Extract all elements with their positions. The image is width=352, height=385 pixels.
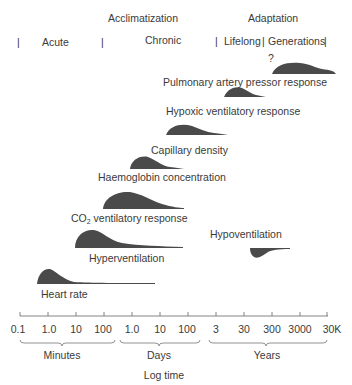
phase-chronic: Chronic (145, 35, 181, 46)
header-adaptation: Adaptation (248, 13, 298, 24)
shape-hypoventilation (250, 248, 290, 258)
separator-lifelong-generations: | (262, 36, 265, 47)
header-acclimatization: Acclimatization (108, 13, 178, 24)
shape-pulmonary-artery-pressor (272, 63, 336, 74)
axis-ticks (20, 312, 327, 316)
brace-days (120, 340, 200, 346)
separator-end: | (324, 36, 327, 47)
label-hypoventilation: Hypoventilation (210, 229, 282, 240)
axis-group-braces (20, 340, 327, 346)
brace-minutes (20, 340, 115, 346)
tick-label: 3 (213, 324, 219, 335)
tick-label: 1.0 (42, 324, 57, 335)
label-co2-ventilatory: CO2 ventilatory response (71, 213, 188, 225)
label-capillary-density: Capillary density (151, 145, 228, 156)
label-hypoxic-ventilatory: Hypoxic ventilatory response (166, 106, 300, 117)
tick-label: 30K (323, 324, 342, 335)
tick-label: 300 (263, 324, 281, 335)
label-hyperventilation: Hyperventilation (89, 253, 164, 264)
shape-hypoxic-ventilatory (224, 87, 266, 97)
shape-capillary-density (166, 125, 228, 135)
tick-label: 3000 (288, 324, 311, 335)
axis-title: Log time (144, 370, 184, 381)
tick-label: 100 (178, 324, 196, 335)
shape-heart-rate (37, 269, 155, 284)
tick-label: 10 (154, 324, 166, 335)
phase-generations: Generations (268, 36, 325, 47)
uncertain-marker: ? (268, 53, 274, 64)
phase-acute: Acute (42, 37, 69, 48)
tick-label: 100 (94, 324, 112, 335)
label-pulmonary-artery-pressor: Pulmonary artery pressor response (163, 77, 327, 88)
tick-label: 10 (70, 324, 82, 335)
brace-years (209, 340, 327, 346)
phase-lifelong: Lifelong (224, 36, 261, 47)
group-label-years: Years (254, 350, 280, 361)
shape-co2-ventilatory (103, 192, 184, 209)
tick-label: 30 (238, 324, 250, 335)
shape-hyperventilation (75, 230, 183, 248)
label-heart-rate: Heart rate (41, 289, 88, 300)
group-label-days: Days (147, 350, 171, 361)
separator-acute-chronic: | (101, 37, 104, 48)
shape-haemoglobin (130, 157, 184, 169)
tick-label: 1.0 (125, 324, 140, 335)
tick-label: 0.1 (11, 324, 26, 335)
separator-chronic-lifelong: | (215, 36, 218, 47)
separator-start: | (17, 37, 20, 48)
label-haemoglobin: Haemoglobin concentration (98, 172, 226, 183)
group-label-minutes: Minutes (44, 350, 81, 361)
